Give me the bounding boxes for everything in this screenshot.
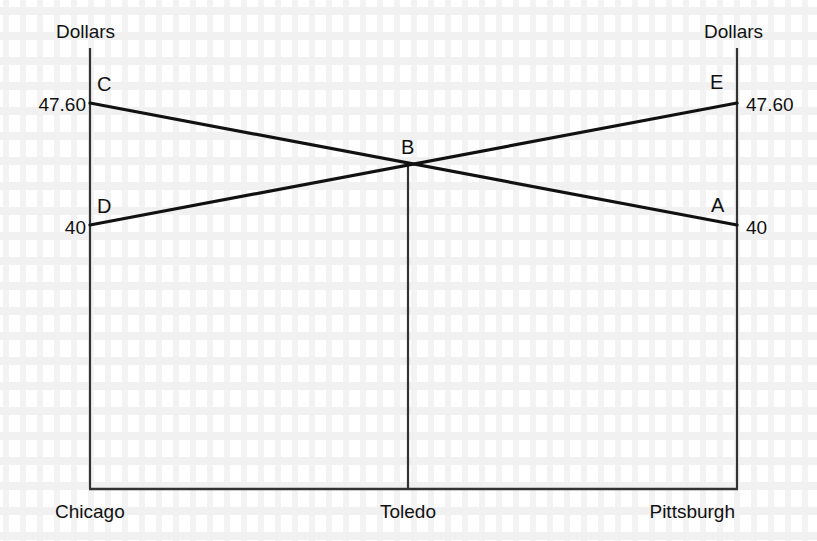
right-tick-label-high: 47.60 bbox=[746, 95, 794, 114]
point-label-a: A bbox=[711, 195, 724, 215]
left-tick-label-high: 47.60 bbox=[38, 95, 86, 114]
chart-plot-area bbox=[0, 0, 817, 541]
chart-canvas: Dollars Dollars 47.60 40 47.60 40 C D B … bbox=[0, 0, 817, 541]
left-tick-label-low: 40 bbox=[65, 218, 86, 237]
x-axis-label-chicago: Chicago bbox=[55, 502, 125, 521]
right-tick-label-low: 40 bbox=[746, 218, 767, 237]
x-axis-label-toledo: Toledo bbox=[380, 502, 436, 521]
x-axis-label-pittsburgh: Pittsburgh bbox=[649, 502, 735, 521]
point-label-e: E bbox=[710, 72, 723, 92]
point-label-b: B bbox=[401, 137, 414, 157]
point-label-d: D bbox=[97, 196, 111, 216]
right-axis-title: Dollars bbox=[704, 22, 763, 41]
left-axis-title: Dollars bbox=[56, 22, 115, 41]
point-label-c: C bbox=[97, 74, 111, 94]
